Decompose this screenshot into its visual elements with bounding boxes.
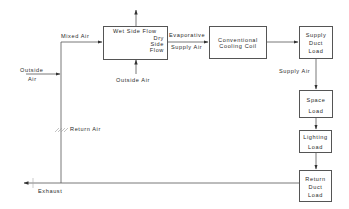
evaporative-label: Evaporative [169,32,205,39]
evaporative-supply-air-label: Supply Air [171,44,202,51]
space-load-box: Space Load [299,90,333,118]
mixed-air-label: Mixed Air [61,33,89,40]
outside-air-bottom-label: Outside Air [116,77,150,84]
return-air-damper-icon [55,128,68,132]
supply-duct-line3: Load [300,47,332,55]
space-load-line2: Load [300,106,332,117]
supply-duct-line2: Duct [300,39,332,47]
return-duct-load-box: Return Duct Load [299,170,332,202]
space-load-line1: Space [300,95,332,106]
return-air-label: Return Air [70,126,101,133]
dry-side-label-3: Flow [150,47,164,54]
lighting-load-box: Lighting Load [299,130,332,153]
outside-air-left-label-1: Outside [20,67,43,74]
lighting-load-line2: Load [300,143,331,153]
exhaust-label: Exhaust [38,188,62,195]
evaporative-cooler-box: Wet Side Flow Dry Side Flow [103,26,168,60]
lighting-load-line1: Lighting [300,133,331,143]
supply-duct-line1: Supply [300,31,332,39]
cooling-coil-box: Conventional Cooling Coil [209,26,267,59]
supply-air-label: Supply Air [279,68,310,75]
return-duct-line1: Return [300,175,331,183]
return-duct-line3: Load [300,191,331,199]
supply-duct-load-box: Supply Duct Load [299,26,333,59]
hvac-diagram: Wet Side Flow Dry Side Flow Conventional… [0,0,349,209]
return-duct-line2: Duct [300,183,331,191]
outside-air-left-label-2: Air [28,76,37,83]
wet-side-flow-label: Wet Side Flow [113,28,157,35]
